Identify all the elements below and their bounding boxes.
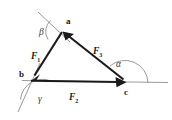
angle-label-beta: β [39,28,44,38]
vector-label-f1: F1 [31,52,40,63]
force-triangle-figure: a b c F1 F2 F3 α β γ [0,0,172,120]
vector-f2-shaft [31,81,118,82]
angle-label-gamma: γ [38,95,42,105]
figure-canvas [0,0,172,120]
vertex-label-b: b [19,70,24,79]
vector-label-f3: F3 [93,47,102,58]
vector-label-f2-subscript: 2 [75,98,78,104]
vector-label-f3-subscript: 3 [99,52,102,58]
vector-label-f1-subscript: 1 [37,57,40,63]
angle-label-alpha: α [116,60,121,70]
vertex-label-a: a [66,17,71,26]
vector-label-f2: F2 [69,93,78,104]
vertex-label-c: c [124,88,128,97]
